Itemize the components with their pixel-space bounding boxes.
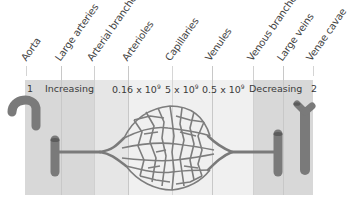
aorta-icon (12, 100, 36, 126)
capillary-network-icon (122, 106, 214, 190)
